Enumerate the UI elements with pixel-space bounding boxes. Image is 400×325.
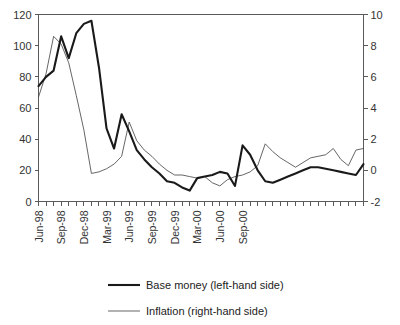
x-tick-label: Jun-99 <box>123 210 135 242</box>
plot-frame <box>39 14 364 202</box>
right-tick-label: 0 <box>371 164 377 176</box>
dual-axis-line-chart: 020406080100120 -20246810 Jun-98Sep-98De… <box>0 0 400 325</box>
x-tick-label: Dec-99 <box>169 210 181 244</box>
x-tick-label: Jun-00 <box>214 210 226 242</box>
right-tick-label: 2 <box>371 133 377 145</box>
left-tick-label: 80 <box>19 71 31 83</box>
left-axis-ticks: 020406080100120 <box>13 9 38 208</box>
x-tick-label: Mar-99 <box>101 210 113 243</box>
series-line-inflation <box>39 36 364 186</box>
left-tick-label: 60 <box>19 102 31 114</box>
left-tick-label: 20 <box>19 164 31 176</box>
right-tick-label: 6 <box>371 71 377 83</box>
right-tick-label: 8 <box>371 40 377 52</box>
x-tick-label: Sep-00 <box>237 210 249 244</box>
legend-label-base-money: Base money (left-hand side) <box>146 279 284 291</box>
x-tick-label: Dec-98 <box>78 210 90 244</box>
x-tick-label: Mar-00 <box>191 210 203 243</box>
x-tick-label: Jun-98 <box>33 210 45 242</box>
left-tick-label: 0 <box>25 196 31 208</box>
chart-page: 020406080100120 -20246810 Jun-98Sep-98De… <box>0 0 400 325</box>
right-tick-label: 4 <box>371 102 377 114</box>
left-tick-label: 40 <box>19 133 31 145</box>
series-line-base-money <box>39 21 364 191</box>
right-axis-ticks: -20246810 <box>364 9 383 208</box>
x-tick-label: Sep-98 <box>55 210 67 244</box>
right-tick-label: 10 <box>371 9 383 21</box>
x-axis-labels: Jun-98Sep-98Dec-98Mar-99Jun-99Sep-99Dec-… <box>33 210 249 244</box>
legend: Base money (left-hand side) Inflation (r… <box>108 279 284 317</box>
right-tick-label: -2 <box>371 196 381 208</box>
x-axis-ticks <box>39 202 364 206</box>
left-tick-label: 100 <box>13 40 31 52</box>
x-tick-label: Sep-99 <box>146 210 158 244</box>
legend-label-inflation: Inflation (right-hand side) <box>146 305 268 317</box>
left-tick-label: 120 <box>13 9 31 21</box>
